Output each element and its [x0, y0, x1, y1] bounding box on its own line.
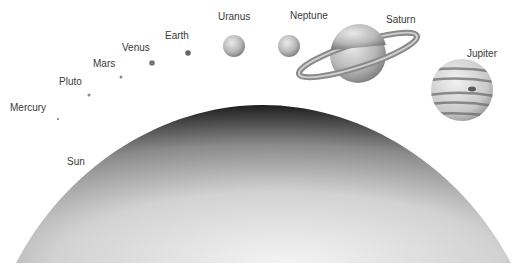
saturn-label: Saturn: [386, 15, 415, 25]
jupiter-shape: [430, 59, 494, 121]
pluto-shape: [88, 94, 91, 97]
mercury-label: Mercury: [10, 103, 46, 113]
saturn-shape: [295, 24, 420, 85]
neptune-shape: [278, 35, 300, 57]
pluto-label: Pluto: [59, 77, 82, 87]
neptune-label: Neptune: [290, 11, 328, 21]
mars-label: Mars: [93, 59, 115, 69]
mars-shape: [120, 76, 123, 79]
jupiter-label: Jupiter: [467, 49, 497, 59]
uranus-label: Uranus: [218, 12, 250, 22]
sun-label: Sun: [67, 157, 85, 167]
venus-shape: [149, 60, 155, 66]
earth-label: Earth: [165, 31, 189, 41]
mercury-shape: [57, 118, 59, 120]
sun-shape: [16, 105, 511, 263]
uranus-shape: [223, 35, 245, 57]
earth-shape: [185, 50, 191, 56]
venus-label: Venus: [122, 43, 150, 53]
solar-system-illustration: [0, 0, 523, 276]
